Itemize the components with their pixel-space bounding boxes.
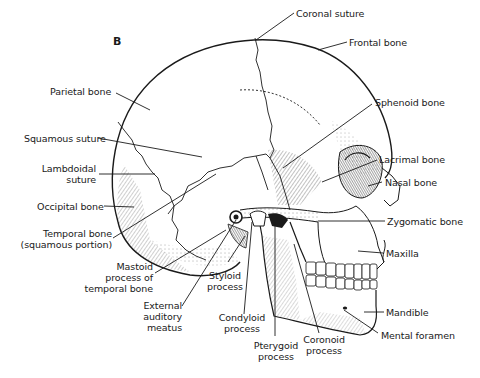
label-lambdoidal-suture: Lambdoidal suture <box>20 163 96 185</box>
label-parietal-bone: Parietal bone <box>50 86 111 97</box>
label-occipital-bone: Occipital bone <box>37 201 104 212</box>
label-sphenoid-bone: Sphenoid bone <box>375 97 445 108</box>
skull-diagram: B Coronal suture Frontal bone Parietal b… <box>0 0 480 378</box>
label-coronal-suture: Coronal suture <box>296 8 364 19</box>
orbit <box>338 145 382 198</box>
label-temporal-bone: Temporal bone (squamous portion) <box>20 228 112 250</box>
label-coronoid-process: Coronoid process <box>296 334 352 356</box>
label-styloid-process: Styloid process <box>200 270 250 292</box>
label-zygomatic-bone: Zygomatic bone <box>387 216 463 227</box>
label-mandible: Mandible <box>386 307 428 318</box>
teeth <box>306 262 377 290</box>
label-squamous-suture: Squamous suture <box>24 133 106 144</box>
label-maxilla: Maxilla <box>386 248 419 259</box>
panel-letter: B <box>113 36 121 47</box>
label-nasal-bone: Nasal bone <box>385 177 437 188</box>
maxilla-outline <box>318 206 384 272</box>
label-frontal-bone: Frontal bone <box>349 37 407 48</box>
sphenoid-shading <box>268 150 322 205</box>
label-mastoid-process: Mastoid process of temporal bone <box>70 261 153 294</box>
label-mental-foramen: Mental foramen <box>381 330 455 341</box>
label-lacrimal-bone: Lacrimal bone <box>379 154 445 165</box>
label-condyloid-process: Condyloid process <box>212 312 272 334</box>
label-external-auditory-meatus: External auditory meatus <box>120 300 182 333</box>
sutures <box>118 38 320 260</box>
mental-foramen-mark <box>343 306 347 309</box>
